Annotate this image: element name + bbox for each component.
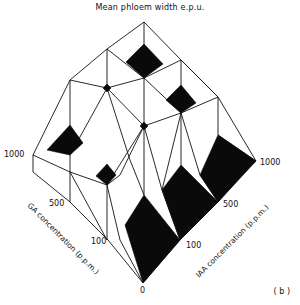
surface-plot: [0, 0, 300, 305]
ga-tick-500: 500: [49, 199, 64, 208]
facet-right-large: [200, 135, 256, 202]
facet-top: [126, 44, 163, 78]
panel-label: ( b ): [274, 287, 290, 296]
ga-tick-100: 100: [91, 237, 106, 246]
facet-left: [47, 125, 83, 155]
ga-tick-1000: 1000: [4, 150, 24, 159]
iaa-tick-500: 500: [223, 200, 238, 209]
origin-tick: 0: [140, 286, 145, 295]
iaa-tick-1000: 1000: [260, 158, 280, 167]
iaa-tick-100: 100: [186, 241, 201, 250]
